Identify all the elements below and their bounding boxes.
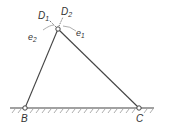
label-e1: e1 bbox=[76, 28, 85, 39]
label-c: C bbox=[136, 113, 144, 124]
joint-c bbox=[137, 106, 141, 110]
label-d2: D2 bbox=[61, 6, 72, 18]
label-e2: e2 bbox=[28, 32, 37, 43]
dashed-d2 bbox=[59, 17, 63, 26]
joint-apex bbox=[56, 27, 60, 31]
linkage-diagram: D1 D2 e2 e1 B C bbox=[0, 0, 171, 134]
link-ac bbox=[58, 29, 139, 108]
ground-hatching bbox=[12, 109, 153, 113]
label-d1: D1 bbox=[38, 10, 49, 22]
joint-b bbox=[23, 106, 27, 110]
label-b: B bbox=[21, 113, 28, 124]
arc-e1 bbox=[63, 26, 76, 31]
arc-e2 bbox=[43, 25, 54, 30]
